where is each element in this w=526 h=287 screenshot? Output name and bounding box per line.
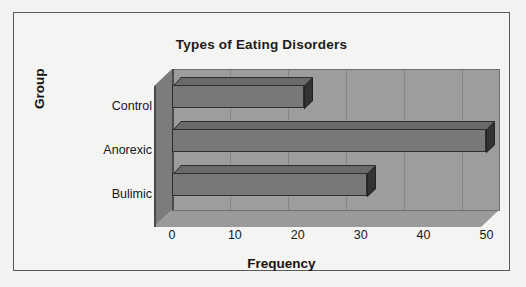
x-axis-tick-label: 50 <box>479 228 493 242</box>
bar-control <box>172 85 304 108</box>
x-axis-title: Frequency <box>14 256 509 271</box>
x-axis-tick-label: 40 <box>417 228 431 242</box>
bar-top-face <box>173 77 313 86</box>
y-axis-title: Group <box>32 69 47 110</box>
x-axis-tick-labels: 01020304050 <box>154 228 499 248</box>
x-axis-tick-label: 20 <box>291 228 305 242</box>
x-axis-title-text: Frequency <box>207 256 315 271</box>
y-axis-tick-label: Control <box>60 99 152 113</box>
chart-title: Types of Eating Disorders <box>14 37 509 52</box>
y-axis-tick-label: Bulimic <box>60 187 152 201</box>
plot-area <box>154 69 499 227</box>
bar-anorexic <box>172 129 486 152</box>
category-axis-line <box>154 86 156 227</box>
plot-floor <box>154 210 499 228</box>
bar-bulimic <box>172 173 367 196</box>
x-axis-tick-label: 0 <box>169 228 176 242</box>
x-axis-tick-label: 10 <box>228 228 242 242</box>
plot-side-wall <box>154 69 172 227</box>
y-axis-tick-label: Anorexic <box>60 143 152 157</box>
chart-screenshot: Types of Eating Disorders Group Control … <box>0 0 526 287</box>
bar-top-face <box>173 121 496 130</box>
bar-top-face <box>173 165 376 174</box>
x-axis-tick-label: 30 <box>354 228 368 242</box>
y-axis-tick-labels: Control Anorexic Bulimic <box>52 69 152 229</box>
chart-frame: Types of Eating Disorders Group Control … <box>13 12 510 271</box>
